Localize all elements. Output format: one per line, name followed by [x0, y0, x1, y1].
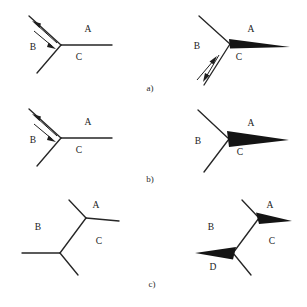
- panel-c: A B C A B C D c): [22, 200, 292, 289]
- branch-c-line: [204, 139, 229, 172]
- panel-a: A B C A B C a): [29, 16, 290, 93]
- label-b: B: [208, 222, 214, 232]
- label-a: A: [248, 24, 255, 34]
- panel-b: A B C A B C b): [29, 109, 289, 184]
- diagram-c-left: A B C: [22, 200, 119, 275]
- label-c: C: [236, 52, 242, 62]
- label-b: B: [194, 41, 200, 51]
- label-c: C: [269, 236, 275, 246]
- label-a: A: [267, 200, 274, 210]
- label-a: A: [85, 24, 92, 34]
- branch-b-line: [198, 110, 229, 139]
- label-b: B: [195, 136, 201, 146]
- figure-canvas: A B C A B C a): [0, 0, 307, 307]
- label-d: D: [210, 262, 217, 272]
- label-b: B: [30, 135, 36, 145]
- branch-b-line: [199, 16, 230, 44]
- figure-container: A B C A B C a): [0, 0, 307, 307]
- branch-a-wedge: [229, 39, 290, 49]
- branch-lower-stub-line: [60, 253, 78, 275]
- diagram-c-right: A B C D: [195, 200, 292, 275]
- label-a: A: [93, 200, 100, 210]
- backbone-line: [233, 218, 259, 253]
- label-c: C: [237, 147, 243, 157]
- branch-a-wedge: [256, 213, 292, 225]
- branch-a-line: [86, 218, 119, 221]
- branch-c-line: [37, 45, 61, 73]
- arrow-inward-b: [34, 31, 56, 49]
- branch-lower-stub-line: [233, 253, 251, 275]
- label-c: C: [96, 236, 102, 246]
- diagram-a-left: A B C: [29, 16, 112, 73]
- branch-upper-stub-line: [242, 200, 259, 218]
- arrow-outward-c: [203, 55, 219, 82]
- branch-d-wedge: [195, 247, 236, 260]
- label-b: B: [30, 42, 36, 52]
- label-c: C: [76, 145, 82, 155]
- branch-a-wedge: [227, 131, 289, 147]
- branch-upper-stub-line: [69, 200, 86, 218]
- branch-c-line: [37, 138, 61, 166]
- caption-panel-a: a): [147, 83, 154, 93]
- diagram-a-right: A B C: [194, 16, 290, 85]
- branch-c-line: [204, 44, 230, 85]
- label-c: C: [76, 52, 82, 62]
- backbone-line: [60, 218, 86, 253]
- diagram-b-right: A B C: [195, 110, 289, 172]
- label-a: A: [85, 117, 92, 127]
- label-b: B: [35, 222, 41, 232]
- caption-panel-c: c): [149, 279, 156, 289]
- caption-panel-b: b): [146, 174, 154, 184]
- label-a: A: [248, 118, 255, 128]
- arrow-inward-b: [34, 124, 56, 142]
- diagram-b-left: A B C: [29, 109, 112, 166]
